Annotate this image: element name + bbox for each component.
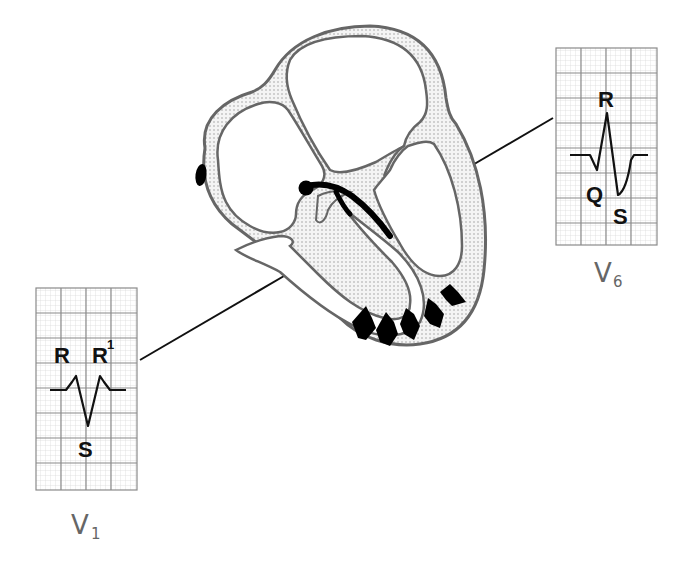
v1-s-wave-label: S: [78, 437, 93, 462]
svg-text:V: V: [71, 510, 89, 540]
svg-text:V: V: [594, 258, 612, 288]
v1-lead-line: [140, 276, 284, 360]
svg-text:1: 1: [91, 525, 101, 543]
v1-r-wave-label: R: [54, 343, 70, 368]
v6-ecg-strip: R Q S: [556, 48, 657, 245]
v6-q-wave-label: Q: [586, 182, 603, 207]
v6-r-wave-label: R: [598, 87, 614, 112]
v6-s-wave-label: S: [613, 204, 628, 229]
heart-ecg-diagram: R R 1 S V 1 R Q S V 6: [0, 0, 696, 565]
v6-lead-label: V 6: [594, 258, 623, 291]
v1-ecg-strip: R R 1 S: [36, 288, 137, 490]
svg-text:6: 6: [613, 273, 623, 291]
v1-r-prime-mark: 1: [107, 337, 114, 352]
v1-lead-label: V 1: [71, 510, 101, 543]
heart: [194, 26, 486, 346]
v1-r-prime-wave-label: R: [92, 343, 108, 368]
